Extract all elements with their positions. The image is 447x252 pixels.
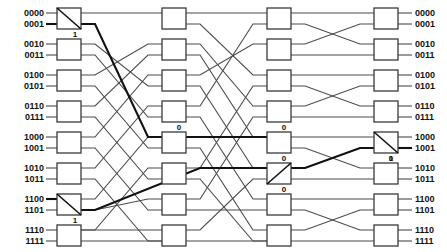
output-label: 0000: [415, 8, 435, 18]
wire-group-output-stubs: [398, 13, 412, 241]
switch-box[interactable]: [57, 70, 81, 91]
input-label: 0010: [24, 39, 44, 49]
switch-box[interactable]: [162, 39, 186, 60]
switch-column-3: [267, 8, 291, 246]
switch-box[interactable]: [57, 101, 81, 122]
input-labels: 0000 0001 0010 0011 0100 0101 0110 0111 …: [24, 8, 44, 246]
switch-box[interactable]: [162, 163, 186, 184]
switch-setting-label: 0: [282, 154, 287, 163]
switch-setting-label: 1: [73, 30, 78, 39]
switch-column-1: [57, 8, 81, 246]
switch-box[interactable]: [57, 39, 81, 60]
input-label: 1101: [24, 205, 44, 215]
wire-group-stage2-stage3: [186, 13, 267, 241]
switch-box[interactable]: [162, 70, 186, 91]
output-label: 0101: [415, 81, 435, 91]
input-label: 1001: [24, 143, 44, 153]
input-label: 1100: [24, 194, 44, 204]
output-label: 1010: [415, 163, 435, 173]
switch-box[interactable]: [57, 132, 81, 153]
output-label: 1110: [415, 225, 434, 235]
switch-box[interactable]: [374, 39, 398, 60]
switch-box[interactable]: [374, 194, 398, 215]
wire-group-stage1-stage2: [81, 13, 162, 241]
switch-box[interactable]: [267, 8, 291, 29]
switch-box[interactable]: [267, 101, 291, 122]
switch-box[interactable]: [162, 194, 186, 215]
switch-setting-label: 0: [282, 185, 287, 194]
output-label: 0100: [415, 70, 435, 80]
input-label: 0111: [25, 112, 44, 122]
switch-box[interactable]: [374, 101, 398, 122]
output-label: 0011: [415, 50, 435, 60]
output-label: 1100: [415, 194, 435, 204]
switch-box[interactable]: [57, 163, 81, 184]
network-diagram: 0000 0001 0010 0011 0100 0101 0110 0111 …: [0, 0, 447, 252]
switch-setting-label: 0: [282, 123, 287, 132]
switch-box[interactable]: [162, 225, 186, 246]
output-labels: 0000 0001 0010 0011 0100 0101 0110 0111 …: [415, 8, 435, 246]
switch-setting-label: 0: [177, 123, 182, 132]
switch-box[interactable]: [267, 39, 291, 60]
output-label: 0110: [415, 101, 435, 111]
switch-box[interactable]: [57, 225, 81, 246]
output-label: 0010: [415, 39, 435, 49]
switch-box[interactable]: [162, 101, 186, 122]
switch-box[interactable]: [267, 194, 291, 215]
input-label: 0110: [24, 101, 44, 111]
input-label: 0000: [24, 8, 44, 18]
input-label: 0100: [24, 70, 44, 80]
output-label: 0111: [415, 112, 434, 122]
switch-box[interactable]: [374, 8, 398, 29]
switch-box[interactable]: [267, 225, 291, 246]
switch-column-2: [162, 8, 186, 246]
switch-setting-label: 1: [389, 154, 394, 163]
switch-setting-label: 1: [73, 216, 78, 225]
input-label: 0001: [24, 19, 44, 29]
input-label: 1011: [24, 174, 44, 184]
switch-box[interactable]: [267, 70, 291, 91]
switch-box[interactable]: [162, 132, 186, 153]
switch-column-4: [374, 8, 398, 246]
diagram-canvas: 0000 0001 0010 0011 0100 0101 0110 0111 …: [0, 0, 447, 252]
output-label: 1001: [415, 143, 435, 153]
switch-box[interactable]: [162, 8, 186, 29]
input-label: 1010: [24, 163, 44, 173]
switch-box[interactable]: [374, 70, 398, 91]
switch-box[interactable]: [374, 225, 398, 246]
input-label: 0101: [24, 81, 44, 91]
output-label: 0001: [415, 19, 435, 29]
input-label: 1111: [25, 236, 44, 246]
wire-group-input-stubs: [46, 13, 57, 241]
output-label: 1101: [415, 205, 435, 215]
input-label: 1110: [25, 225, 44, 235]
output-label: 1000: [415, 132, 435, 142]
output-label: 1011: [415, 174, 435, 184]
wire-group-stage3-stage4: [291, 13, 374, 241]
input-label: 1000: [24, 132, 44, 142]
switch-box[interactable]: [374, 163, 398, 184]
switch-box[interactable]: [267, 132, 291, 153]
output-label: 1111: [415, 236, 434, 246]
input-label: 0011: [24, 50, 44, 60]
